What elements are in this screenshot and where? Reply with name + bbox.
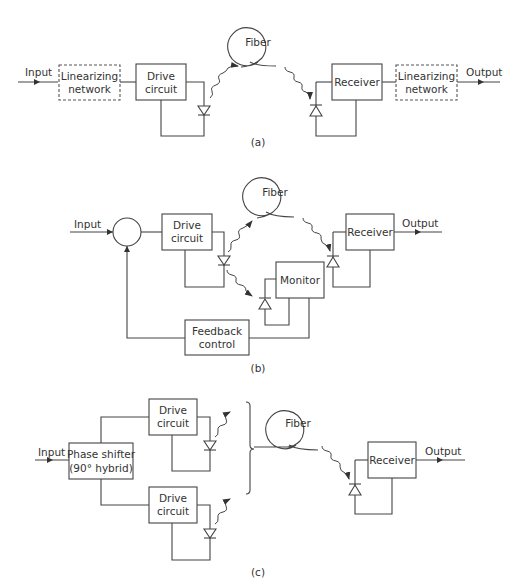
light-to-monitor (227, 270, 252, 296)
photodiode-icon (310, 105, 322, 116)
arrow-icon (478, 79, 484, 85)
caption: (b) (251, 362, 266, 374)
input-label: Input (74, 218, 101, 230)
block-label: Drive (159, 492, 187, 504)
light-emission-bottom (215, 499, 230, 524)
block-label: Drive (147, 70, 175, 82)
summing-junction (113, 218, 141, 246)
block-label: network (405, 83, 449, 95)
diagram-a: Input Linearizing network Drive circuit … (18, 28, 502, 148)
fiber-label: Fiber (285, 417, 311, 429)
light-emission (210, 66, 238, 98)
laser-diode-icon (198, 106, 210, 115)
block-label: Drive (173, 219, 201, 231)
diagram-b: Input Drive circuit Fiber Receiver (70, 178, 442, 374)
block-label: circuit (145, 83, 177, 95)
photodiode-icon (327, 256, 339, 267)
fiber-label: Fiber (262, 186, 288, 198)
light-reception (322, 446, 349, 479)
block-label: Feedback (192, 325, 243, 337)
input-label: Input (38, 446, 65, 458)
caption: (a) (251, 136, 266, 148)
light-emission-top (215, 412, 230, 437)
laser-diode-icon (204, 441, 216, 450)
arrow-icon (34, 79, 40, 85)
arrow-icon (124, 246, 130, 252)
block-label: Drive (159, 404, 187, 416)
block-label: control (199, 338, 235, 350)
block-label: circuit (157, 417, 189, 429)
output-label: Output (402, 217, 438, 229)
block-label: Phase shifter (67, 448, 136, 460)
output-label: Output (466, 66, 502, 78)
photodiode-icon (349, 484, 361, 495)
arrow-icon (415, 229, 421, 235)
fiber-label: Fiber (245, 36, 271, 48)
arrow-icon (437, 457, 443, 463)
laser-diode-icon (204, 529, 216, 538)
caption: (c) (251, 566, 265, 578)
input-label: Input (25, 66, 52, 78)
block-label: circuit (171, 232, 203, 244)
block-label: network (68, 83, 112, 95)
block-label: Receiver (369, 454, 415, 466)
output-label: Output (425, 445, 461, 457)
arrow-icon (107, 229, 113, 235)
light-emission (228, 221, 252, 252)
block-label: circuit (157, 505, 189, 517)
monitor-photodiode-icon (259, 298, 271, 309)
block-label: (90° hybrid) (69, 462, 133, 474)
optical-link-diagrams: Input Linearizing network Drive circuit … (0, 0, 517, 587)
block-label: Receiver (334, 76, 380, 88)
block-label: Linearizing (398, 70, 455, 82)
combiner-brace (246, 402, 254, 494)
block-label: Receiver (347, 226, 393, 238)
block-label: Linearizing (61, 70, 118, 82)
laser-diode-icon (218, 256, 230, 265)
block-label: Monitor (280, 274, 321, 286)
light-reception (285, 67, 310, 99)
diagram-c: Input Phase shifter (90° hybrid) Drive c… (35, 399, 465, 578)
light-reception (303, 218, 330, 251)
